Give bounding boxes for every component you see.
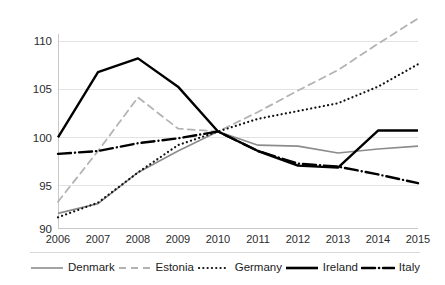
- legend-label: Ireland: [323, 262, 358, 274]
- line-dotted-black-icon: [197, 262, 231, 274]
- series-line-italy: [58, 132, 418, 184]
- legend-item-italy[interactable]: Italy: [361, 262, 420, 274]
- line-dashed-gray-icon: [118, 262, 152, 274]
- legend-label: Italy: [399, 262, 420, 274]
- line-chart: 110 105 100 95 90 2006 2007 2008 2009 20…: [0, 0, 445, 285]
- legend: Denmark Estonia Germany Ireland Italy: [30, 252, 420, 278]
- line-dashdot-black-icon: [361, 262, 395, 274]
- legend-item-germany[interactable]: Germany: [197, 262, 282, 274]
- series-line-estonia: [58, 18, 418, 201]
- line-solid-black-icon: [285, 262, 319, 274]
- legend-label: Germany: [235, 262, 282, 274]
- legend-item-ireland[interactable]: Ireland: [285, 262, 358, 274]
- line-solid-gray-icon: [30, 262, 64, 274]
- legend-item-denmark[interactable]: Denmark: [30, 262, 115, 274]
- series-lines: [0, 0, 445, 285]
- legend-item-estonia[interactable]: Estonia: [118, 262, 194, 274]
- legend-label: Estonia: [156, 262, 194, 274]
- legend-label: Denmark: [68, 262, 115, 274]
